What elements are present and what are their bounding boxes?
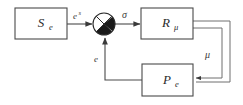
wire-regulator-to-plant-outer (193, 21, 230, 82)
signal-mu-base: μ (204, 49, 210, 60)
block-plant-base: P (162, 72, 171, 87)
block-plant-subscript: e (175, 79, 179, 89)
block-plant[interactable]: P e (142, 64, 193, 96)
signal-error-base: e (94, 54, 98, 64)
wire-plant-to-junction (105, 38, 142, 80)
block-source[interactable]: S e (15, 8, 67, 39)
signal-label-sigma: σ (122, 9, 128, 20)
block-diagram-svg: S e R μ P e e s (0, 0, 243, 105)
signal-label-input: e s (73, 9, 82, 21)
block-regulator[interactable]: R μ (141, 8, 193, 39)
block-source-base: S (38, 15, 45, 30)
signal-label-error: e (94, 54, 98, 64)
signal-label-mu: μ (204, 49, 210, 60)
block-source-subscript: e (49, 22, 53, 32)
summing-junction[interactable] (93, 13, 115, 35)
signal-sigma-base: σ (122, 9, 128, 20)
signal-input-base: e (73, 11, 77, 21)
block-regulator-base: R (161, 15, 170, 30)
signal-input-superscript: s (79, 9, 82, 16)
block-regulator-subscript: μ (173, 22, 178, 32)
block-diagram-canvas: S e R μ P e e s (0, 0, 243, 105)
